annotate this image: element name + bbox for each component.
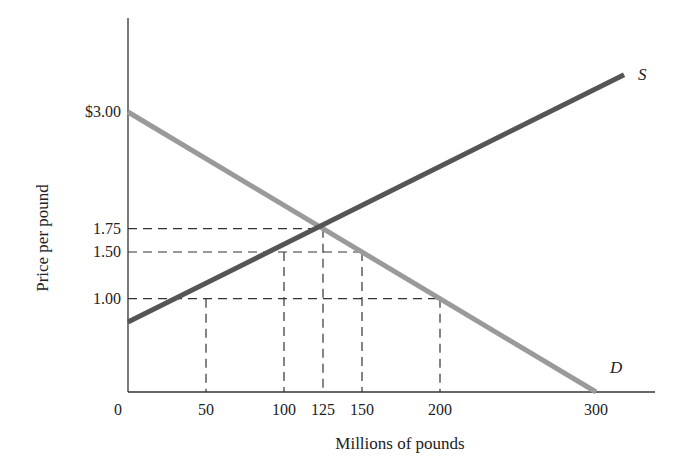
x-tick-label: 300 [584, 401, 608, 418]
y-tick-label: 1.75 [93, 220, 121, 237]
axes [128, 18, 655, 392]
x-tick-label: 100 [272, 401, 296, 418]
y-axis-label: Price per pound [33, 184, 52, 292]
x-tick-label: 0 [114, 401, 122, 418]
supply-demand-chart: SD 050100125150200300$3.001.751.501.00 M… [0, 0, 688, 474]
supply-label: S [638, 65, 647, 84]
x-tick-label: 50 [198, 401, 214, 418]
x-tick-label: 150 [350, 401, 374, 418]
y-tick-label: $3.00 [85, 103, 121, 120]
demand-label: D [609, 358, 623, 377]
y-tick-label: 1.50 [93, 243, 121, 260]
reference-dashed-lines [128, 229, 440, 392]
x-axis-label: Millions of pounds [335, 434, 464, 453]
x-tick-label: 200 [428, 401, 452, 418]
supply-curve [128, 75, 624, 322]
x-tick-label: 125 [311, 401, 335, 418]
y-tick-label: 1.00 [93, 290, 121, 307]
tick-labels: 050100125150200300$3.001.751.501.00 [85, 103, 608, 418]
